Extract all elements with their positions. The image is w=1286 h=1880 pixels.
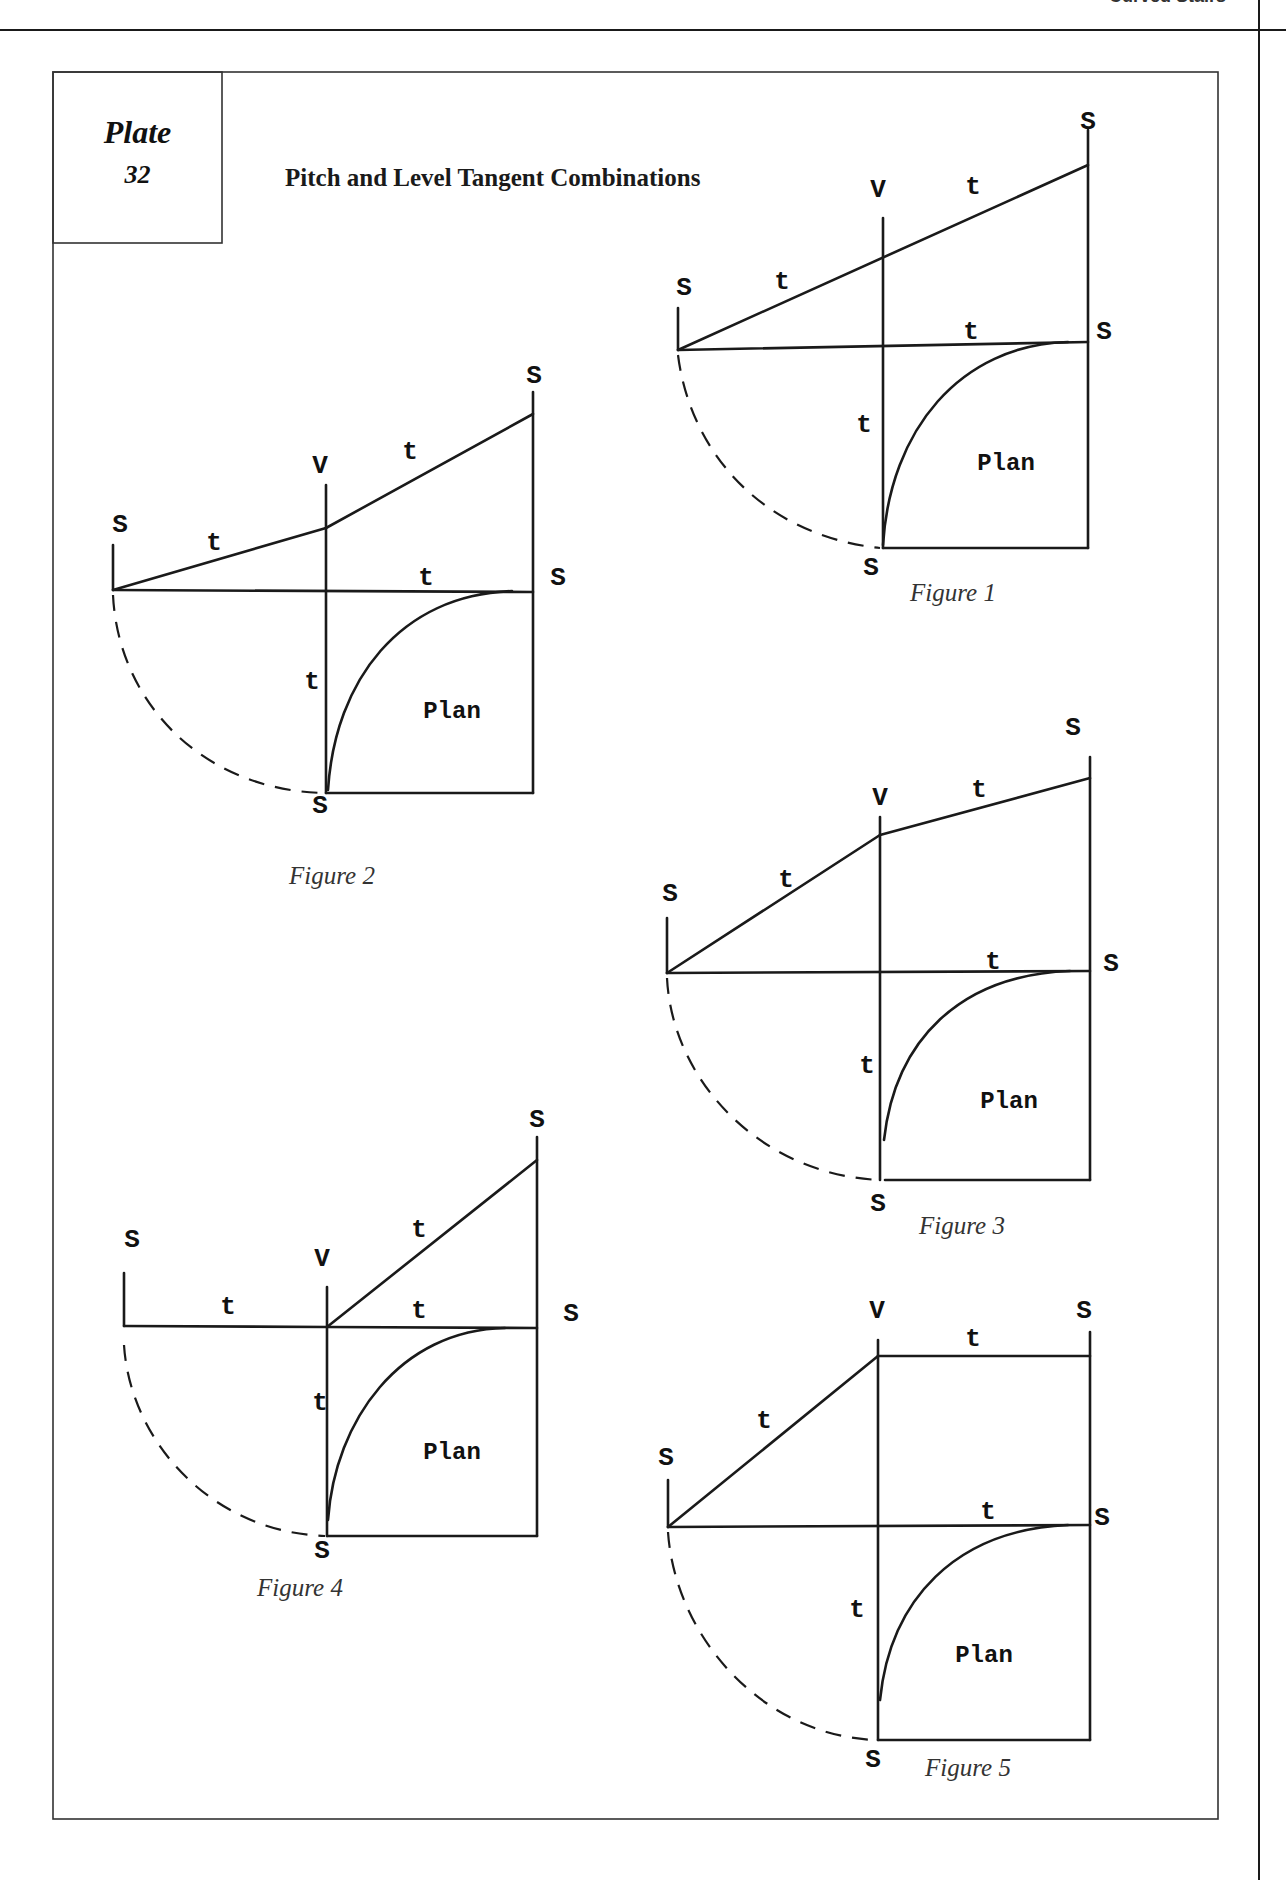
fig3-spring-label-right: S <box>1103 951 1119 977</box>
fig5-vertex-label: V <box>869 1298 885 1324</box>
fig3-tangent-label-upper: t <box>971 777 987 803</box>
fig5-tangent-label-vertical: t <box>849 1597 865 1623</box>
fig1-plan-label: Plan <box>977 452 1035 476</box>
fig4-tangent-label-left-level: t <box>220 1294 236 1320</box>
fig2-vertex-label: V <box>312 453 328 479</box>
plate-word: Plate <box>53 114 222 151</box>
figure-5-caption: Figure 5 <box>925 1754 1011 1782</box>
fig1-tangent-label-pitch: t <box>774 269 790 295</box>
fig5-spring-label-top: S <box>1076 1298 1092 1324</box>
fig2-spring-label-top: S <box>526 363 542 389</box>
fig1-vertex-label: V <box>870 177 886 203</box>
fig5-tangent-label-pitch: t <box>756 1408 772 1434</box>
plate-number-box: Plate 32 <box>53 72 222 243</box>
fig4-spring-label-left: S <box>124 1227 140 1253</box>
plate-frame <box>53 72 1218 1819</box>
fig2-tangent-label-upper: t <box>402 439 418 465</box>
fig4-plan-label: Plan <box>423 1441 481 1465</box>
fig1-tangent-label-upper: t <box>965 174 981 200</box>
fig3-tangent-label-vertical: t <box>859 1053 875 1079</box>
fig5-spring-label-left: S <box>658 1445 674 1471</box>
fig3-vertex-label: V <box>872 785 888 811</box>
fig3-spring-label-bottom: S <box>870 1191 886 1217</box>
fig4-spring-label-bottom: S <box>314 1538 330 1564</box>
fig4-spring-label-right: S <box>563 1301 579 1327</box>
fig3-plan-label: Plan <box>980 1090 1038 1114</box>
fig5-spring-label-right: S <box>1094 1505 1110 1531</box>
fig1-spring-label-right: S <box>1096 319 1112 345</box>
fig2-plan-label: Plan <box>423 700 481 724</box>
fig5-spring-label-bottom: S <box>865 1747 881 1773</box>
plate-number: 32 <box>53 160 222 190</box>
fig5-plan-label: Plan <box>955 1644 1013 1668</box>
fig3-spring-label-left: S <box>662 881 678 907</box>
fig3-spring-label-top: S <box>1065 715 1081 741</box>
figure-3-drawing <box>667 757 1090 1180</box>
figure-1-caption: Figure 1 <box>910 579 996 607</box>
fig4-tangent-label-upper: t <box>411 1217 427 1243</box>
fig2-tangent-label-pitch: t <box>206 530 222 556</box>
fig2-spring-label-right: S <box>550 565 566 591</box>
figure-4-drawing <box>124 1137 537 1536</box>
fig1-spring-label-left: S <box>676 275 692 301</box>
figure-3-caption: Figure 3 <box>919 1212 1005 1240</box>
fig4-spring-label-top: S <box>529 1107 545 1133</box>
figure-5-drawing <box>668 1332 1090 1740</box>
fig1-spring-label-bottom: S <box>863 555 879 581</box>
fig2-spring-label-bottom: S <box>312 793 328 819</box>
figure-2-caption: Figure 2 <box>289 862 375 890</box>
fig3-tangent-label-level: t <box>985 949 1001 975</box>
fig2-tangent-label-vertical: t <box>304 669 320 695</box>
fig1-tangent-label-level: t <box>963 319 979 345</box>
plate-title: Pitch and Level Tangent Combinations <box>285 164 700 192</box>
figure-4-caption: Figure 4 <box>257 1574 343 1602</box>
fig1-spring-label-top: S <box>1080 109 1096 135</box>
fig1-tangent-label-vertical: t <box>856 412 872 438</box>
fig4-tangent-label-level: t <box>411 1298 427 1324</box>
fig2-tangent-label-level: t <box>418 565 434 591</box>
fig2-spring-label-left: S <box>112 512 128 538</box>
fig4-vertex-label: V <box>314 1246 330 1272</box>
plate-drawing <box>0 0 1286 1880</box>
fig5-tangent-label-level: t <box>980 1499 996 1525</box>
fig4-tangent-label-vertical: t <box>312 1390 328 1416</box>
fig3-tangent-label-pitch: t <box>778 867 794 893</box>
fig5-tangent-label-upper-level: t <box>965 1326 981 1352</box>
